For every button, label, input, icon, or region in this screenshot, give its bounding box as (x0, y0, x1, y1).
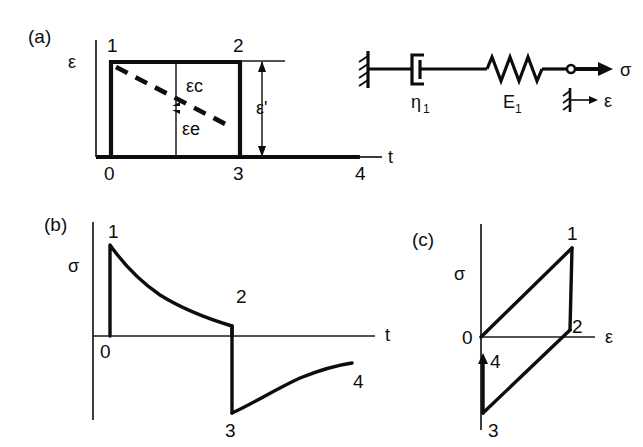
panel-c: (c) σ ε 1 2 3 4 0 (412, 223, 613, 441)
figure-root: (a) ε t 1 2 0 3 4 εc εe ε' (0, 0, 643, 447)
panel-c-y-axis-label: σ (454, 264, 465, 284)
panel-c-recovery-arrow-icon (478, 353, 488, 364)
dashpot-label: η (411, 92, 421, 112)
maxwell-model-schematic: η 1 E 1 σ ε (359, 51, 631, 116)
panel-c-loading-segment (481, 248, 572, 337)
panel-b-tag: (b) (44, 214, 67, 235)
panel-a-tick-3: 3 (233, 163, 244, 184)
panel-b: (b) σ t 1 2 3 4 0 (44, 214, 390, 441)
panel-b-point-2: 2 (236, 286, 247, 307)
panel-a-tick-0: 0 (104, 163, 115, 184)
panel-a-tick-4: 4 (355, 163, 366, 184)
panel-a-creep-strain-label: εc (186, 76, 203, 96)
node-icon (567, 65, 575, 73)
stress-arrow-icon (598, 62, 613, 76)
panel-b-point-3: 3 (225, 420, 236, 441)
spring-subscript: 1 (515, 102, 522, 116)
figure-canvas: (a) ε t 1 2 0 3 4 εc εe ε' (0, 0, 643, 447)
panel-c-tag: (c) (412, 229, 434, 250)
panel-b-x-axis-label: t (385, 325, 390, 345)
panel-a: (a) ε t 1 2 0 3 4 εc εe ε' (28, 26, 393, 184)
panel-c-point-4: 4 (490, 351, 501, 372)
strain-arrow-icon (589, 96, 598, 104)
panel-b-point-1: 1 (108, 221, 119, 242)
spring-label: E (503, 92, 515, 112)
panel-b-tick-0: 0 (100, 341, 111, 362)
panel-a-point-1: 1 (107, 35, 118, 56)
panel-b-y-axis-label: σ (68, 256, 79, 276)
panel-c-x-axis-label: ε (605, 327, 613, 347)
panel-a-tag: (a) (28, 26, 51, 47)
panel-c-point-3: 3 (488, 420, 499, 441)
panel-b-point-4: 4 (353, 371, 364, 392)
panel-a-total-strain-label: ε' (256, 98, 267, 118)
panel-a-elastic-strain-label: εe (182, 119, 200, 139)
panel-b-recovery-curve (232, 363, 352, 413)
panel-c-point-1: 1 (567, 223, 578, 244)
model-stress-label: σ (620, 60, 631, 80)
dashpot-subscript: 1 (423, 102, 430, 116)
panel-a-point-2: 2 (233, 35, 244, 56)
spring-icon (487, 57, 542, 81)
model-strain-label: ε (604, 91, 612, 111)
panel-a-y-axis-label: ε (68, 52, 76, 72)
panel-c-point-2: 2 (572, 316, 583, 337)
panel-c-tick-0: 0 (462, 327, 473, 348)
panel-b-relaxation-curve (110, 245, 232, 336)
panel-a-x-axis-label: t (388, 147, 393, 167)
panel-a-elastic-dashed-line (116, 67, 233, 128)
panel-a-dim-arrow-up (258, 61, 266, 72)
